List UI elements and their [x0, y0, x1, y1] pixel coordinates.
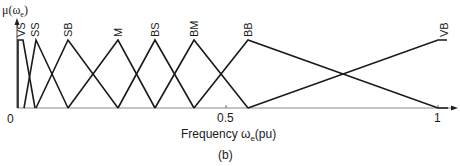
mf-ss-line	[24, 40, 68, 108]
mf-label-m: M	[112, 28, 124, 37]
mf-label-bs: BS	[149, 22, 161, 37]
mf-label-sb: SB	[62, 22, 74, 37]
x-tick-label-05: 0.5	[217, 111, 234, 125]
x-tick-label-1: 1	[434, 111, 441, 125]
membership-function-chart: VS SS SB M BS BM BB VB μ(ωe) 0 0.5 1 Fre…	[0, 0, 460, 166]
mf-label-bm: BM	[188, 21, 200, 38]
mf-bs-line	[118, 40, 194, 108]
x-tick-label-0: 0	[7, 112, 14, 126]
mf-label-bb: BB	[242, 22, 254, 37]
mf-label-vs: VS	[15, 22, 27, 37]
x-axis-arrow-icon	[451, 106, 458, 111]
mf-m-line	[68, 40, 155, 108]
figure-caption: (b)	[218, 148, 233, 162]
mf-sb-line	[36, 40, 118, 108]
mf-label-ss: SS	[29, 22, 41, 37]
y-axis-label: μ(ωe)	[2, 3, 28, 19]
x-axis-label: Frequency ωe(pu)	[181, 127, 276, 143]
mf-label-vb: VB	[438, 22, 450, 37]
